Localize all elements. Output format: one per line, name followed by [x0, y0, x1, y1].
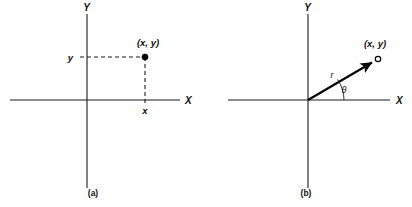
panel-b-radius-label: r — [331, 70, 335, 80]
panel-b-x-axis-label: X — [395, 95, 404, 106]
panel-b-caption: (b) — [301, 188, 312, 198]
panel-a: Y X y x (x, y) (a) — [10, 2, 193, 198]
panel-a-x-coordinate-label: x — [141, 105, 148, 116]
panel-a-caption: (a) — [88, 188, 99, 198]
panel-a-y-axis-label: Y — [83, 2, 91, 13]
panel-b-y-axis-label: Y — [304, 2, 312, 13]
figure-container: Y X y x (x, y) (a) Y X — [0, 0, 412, 207]
panel-b-point-marker — [375, 56, 380, 61]
panel-a-y-coordinate-label: y — [67, 52, 74, 63]
panel-b-point-label: (x, y) — [364, 38, 386, 49]
panel-b: Y X r θ (x, y) (b) — [228, 2, 404, 198]
panel-b-theta-label: θ — [342, 85, 347, 95]
panel-a-x-axis-label: X — [184, 95, 193, 106]
panel-b-radius-vector — [308, 63, 372, 101]
panel-a-point-label: (x, y) — [137, 37, 159, 48]
panel-a-point-marker — [142, 54, 148, 60]
coordinate-systems-diagram: Y X y x (x, y) (a) Y X — [0, 0, 412, 207]
